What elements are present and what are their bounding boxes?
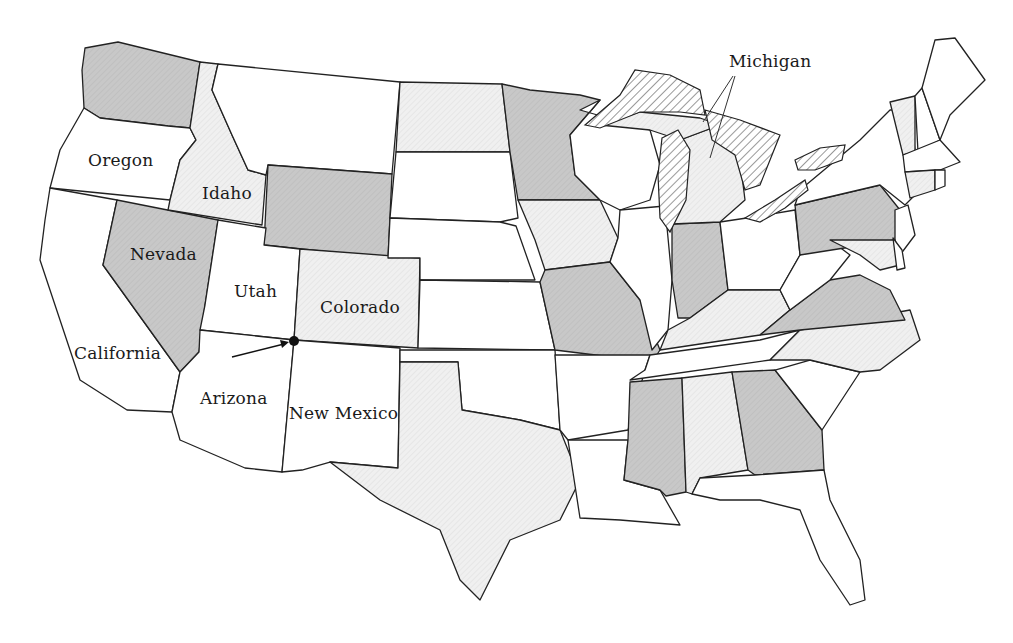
four-corners-point (289, 336, 299, 346)
label-nevada: Nevada (130, 244, 197, 264)
state-rhode-island (935, 170, 945, 190)
state-north-dakota (396, 82, 510, 152)
label-new-mexico: New Mexico (289, 403, 398, 423)
label-arizona: Arizona (200, 388, 268, 408)
state-kansas (418, 280, 555, 350)
label-oregon: Oregon (88, 150, 153, 170)
state-iowa (518, 200, 618, 270)
label-michigan: Michigan (729, 51, 811, 71)
state-south-dakota (390, 152, 518, 222)
state-washington (82, 42, 200, 128)
state-mississippi (624, 378, 686, 496)
label-colorado: Colorado (320, 297, 400, 317)
label-california: California (74, 343, 161, 363)
state-wyoming (264, 165, 392, 258)
state-connecticut (905, 170, 935, 198)
state-florida (692, 470, 865, 605)
label-idaho: Idaho (202, 183, 252, 203)
us-map (0, 0, 1013, 643)
label-utah: Utah (234, 281, 277, 301)
